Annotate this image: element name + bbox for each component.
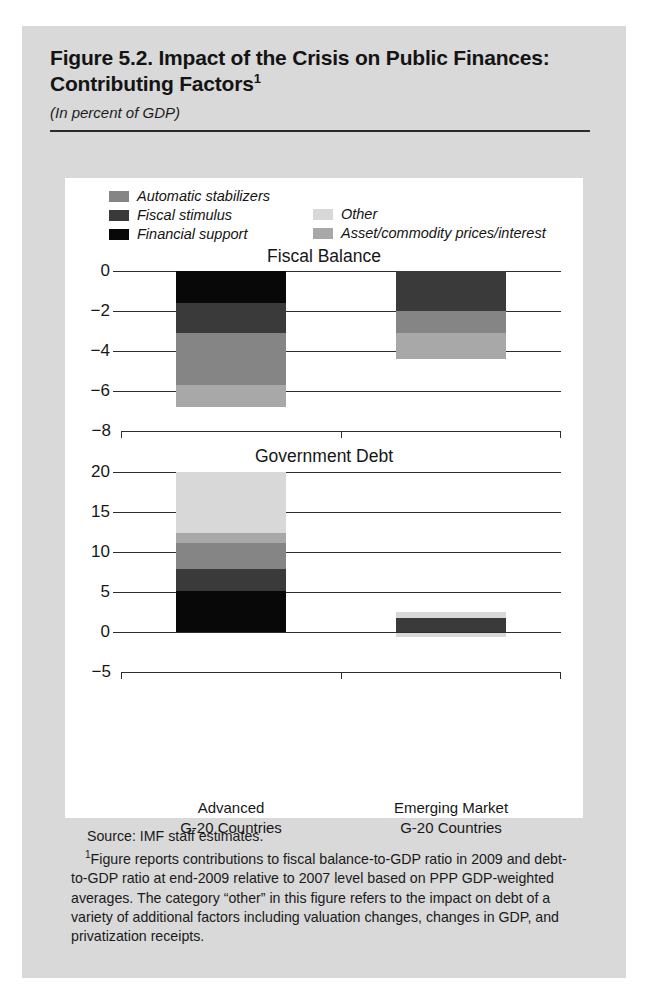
legend-label: Other — [341, 206, 377, 222]
segment-asset-commodity-prices-interest — [396, 333, 506, 359]
figure-page: Figure 5.2. Impact of the Crisis on Publ… — [0, 0, 648, 1004]
segment-asset-commodity-prices-interest — [176, 533, 286, 543]
tick-mark — [113, 512, 121, 513]
y-axis-label: −2 — [91, 301, 110, 321]
segment-other — [176, 472, 286, 533]
figure-frame: Figure 5.2. Impact of the Crisis on Publ… — [22, 26, 626, 978]
plot-area-fiscal-balance: 0 −2 −4 −6 — [121, 271, 561, 441]
category-label-line1: Advanced — [121, 798, 341, 818]
y-axis-label: 0 — [101, 261, 110, 281]
tick-mark — [113, 271, 121, 272]
legend-swatch-icon — [109, 210, 129, 221]
figure-notes: Source: IMF staff estimates. 1Figure rep… — [71, 827, 583, 947]
axis-mid-tick — [341, 672, 342, 679]
legend-item-asset-commodity-prices-interest: Asset/commodity prices/interest — [313, 224, 546, 242]
tick-mark — [113, 632, 121, 633]
figure-content: Figure 5.2. Impact of the Crisis on Publ… — [49, 45, 599, 960]
y-axis-label: −8 — [92, 421, 111, 441]
legend-label: Financial support — [137, 226, 247, 242]
tick-mark — [113, 472, 121, 473]
segment-automatic-stabilizers — [176, 543, 286, 569]
legend-swatch-icon — [109, 191, 129, 202]
legend-item-financial-support: Financial support — [109, 225, 270, 243]
legend-swatch-icon — [313, 228, 333, 239]
tick-mark — [113, 311, 121, 312]
legend-item-automatic-stabilizers: Automatic stabilizers — [109, 187, 270, 205]
legend-label: Asset/commodity prices/interest — [341, 225, 546, 241]
gridline-0: 0 — [121, 632, 561, 633]
y-axis-label: 0 — [101, 622, 110, 642]
legend-column-right: Other Asset/commodity prices/interest — [313, 205, 546, 243]
figure-title: Figure 5.2. Impact of the Crisis on Publ… — [49, 45, 599, 97]
source-note: Source: IMF staff estimates. — [71, 827, 583, 846]
y-axis-label: 20 — [91, 462, 110, 482]
segment-financial-support — [176, 271, 286, 303]
y-axis-label: −5 — [92, 662, 111, 682]
figure-subtitle: (In percent of GDP) — [49, 104, 599, 121]
segment-automatic-stabilizers — [176, 333, 286, 385]
subchart-title: Government Debt — [65, 446, 583, 467]
legend-label: Fiscal stimulus — [137, 207, 232, 223]
x-axis-fiscal-balance: −8 — [121, 431, 561, 438]
y-axis-label: 15 — [91, 502, 110, 522]
y-axis-label: −4 — [91, 341, 110, 361]
legend-item-fiscal-stimulus: Fiscal stimulus — [109, 206, 270, 224]
y-axis-label: 5 — [101, 582, 110, 602]
bar-advanced-fiscal-balance — [176, 271, 286, 407]
footnote-text: Figure reports contributions to fiscal b… — [71, 851, 567, 944]
title-divider — [50, 130, 590, 132]
y-axis-label: 10 — [91, 542, 110, 562]
tick-mark — [113, 391, 121, 392]
bar-advanced-government-debt — [176, 472, 286, 632]
subchart-government-debt: Government Debt 20 15 — [65, 446, 583, 726]
legend-column-left: Automatic stabilizers Fiscal stimulus Fi… — [109, 187, 270, 244]
legend-swatch-icon — [313, 209, 333, 220]
subchart-title: Fiscal Balance — [65, 246, 583, 267]
tick-mark — [113, 592, 121, 593]
chart-legend: Automatic stabilizers Fiscal stimulus Fi… — [109, 187, 579, 245]
tick-mark — [113, 351, 121, 352]
y-axis-label: −6 — [91, 381, 110, 401]
legend-swatch-icon — [109, 229, 129, 240]
figure-title-text: Figure 5.2. Impact of the Crisis on Publ… — [50, 46, 550, 95]
segment-fiscal-stimulus — [396, 618, 506, 632]
segment-financial-support — [176, 591, 286, 632]
legend-label: Automatic stabilizers — [137, 188, 270, 204]
bar-emerging-government-debt — [396, 612, 506, 637]
tick-mark — [113, 552, 121, 553]
plot-area-government-debt: 20 15 10 5 — [121, 472, 561, 687]
axis-mid-tick — [341, 431, 342, 438]
segment-automatic-stabilizers — [396, 311, 506, 333]
segment-asset-commodity-prices-interest — [176, 385, 286, 407]
segment-fiscal-stimulus — [176, 303, 286, 333]
footnote: 1Figure reports contributions to fiscal … — [71, 848, 583, 946]
chart-panel: Automatic stabilizers Fiscal stimulus Fi… — [65, 178, 583, 818]
subchart-fiscal-balance: Fiscal Balance 0 −2 −4 — [65, 246, 583, 441]
legend-item-other: Other — [313, 205, 546, 223]
figure-title-footnote-marker: 1 — [254, 71, 261, 86]
category-label-line1: Emerging Market — [341, 798, 561, 818]
bar-emerging-fiscal-balance — [396, 271, 506, 359]
x-axis-government-debt: −5 — [121, 672, 561, 679]
segment-fiscal-stimulus — [176, 569, 286, 591]
segment-fiscal-stimulus — [396, 271, 506, 311]
